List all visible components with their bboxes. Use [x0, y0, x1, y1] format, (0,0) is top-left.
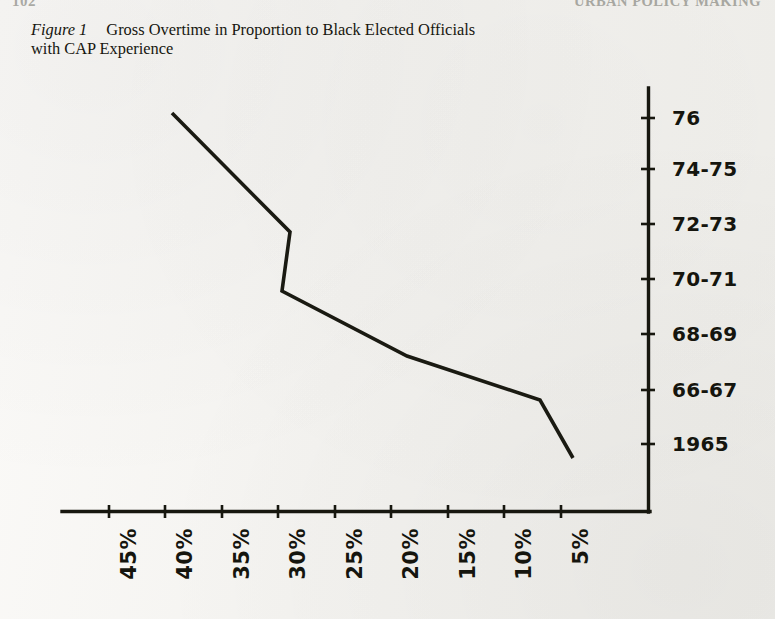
x-axis-label-15pct: 15% [456, 528, 480, 580]
y-axis-label-70-71: 70-71 [672, 267, 737, 291]
y-axis-label-68-69: 68-69 [672, 322, 737, 346]
x-axis-label-10pct: 10% [512, 528, 536, 580]
y-axis-label-72-73: 72-73 [672, 212, 737, 236]
y-axis-label-1965: 1965 [672, 432, 729, 456]
data-series-line [172, 113, 573, 458]
x-axis-label-35pct: 35% [230, 528, 254, 580]
chart-svg [0, 0, 775, 619]
x-axis-label-40pct: 40% [173, 528, 197, 580]
x-axis-label-30pct: 30% [286, 528, 310, 580]
x-axis-label-20pct: 20% [399, 528, 423, 580]
chart-plot-area [0, 0, 775, 619]
x-axis-label-5pct: 5% [569, 528, 593, 565]
x-axis-label-25pct: 25% [343, 528, 367, 580]
y-axis-label-74-75: 74-75 [672, 157, 737, 181]
y-axis-label-76: 76 [672, 106, 700, 130]
scanned-page: 102 URBAN POLICY MAKING Figure 1Gross Ov… [0, 0, 775, 619]
y-axis-label-66-67: 66-67 [672, 378, 737, 402]
x-axis-label-45pct: 45% [117, 528, 141, 580]
